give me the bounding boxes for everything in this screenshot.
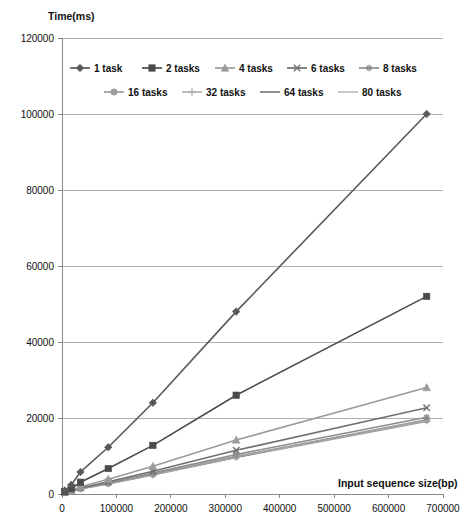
y-tick-label: 80000 [26,185,54,196]
x-tick-label: 0 [59,503,65,514]
data-point-marker [77,479,83,485]
data-point-marker [366,65,372,71]
legend-label: 16 tasks [128,87,168,98]
y-tick-label: 60000 [26,261,54,272]
x-tick-label: 200000 [154,503,188,514]
legend-label: 4 tasks [239,63,273,74]
data-point-marker [150,442,156,448]
legend-label: 6 tasks [311,63,345,74]
data-point-marker [423,293,429,299]
legend-label: 64 tasks [284,87,324,98]
y-axis-title: Time(ms) [48,10,95,22]
legend-label: 1 task [94,63,123,74]
line-chart: 020000400006000080000100000120000 010000… [0,0,466,531]
data-point-marker [423,414,429,420]
y-tick-label: 100000 [21,109,55,120]
y-tick-label: 20000 [26,413,54,424]
y-tick-label: 0 [48,489,54,500]
data-point-marker [111,89,117,95]
data-point-marker [233,392,239,398]
legend-label: 80 tasks [362,87,402,98]
x-tick-label: 500000 [317,503,351,514]
legend-label: 8 tasks [383,63,417,74]
legend-label: 32 tasks [206,87,246,98]
x-tick-label: 700000 [426,503,460,514]
data-point-marker [149,65,155,71]
chart-container: 020000400006000080000100000120000 010000… [0,0,466,531]
x-tick-label: 600000 [372,503,406,514]
y-tick-label: 40000 [26,337,54,348]
legend-label: 2 tasks [166,63,200,74]
x-axis-title: Input sequence size(bp) [338,477,458,489]
x-tick-label: 400000 [263,503,297,514]
y-tick-label: 120000 [21,33,55,44]
data-point-marker [105,465,111,471]
x-tick-label: 100000 [100,503,134,514]
x-tick-label: 300000 [209,503,243,514]
